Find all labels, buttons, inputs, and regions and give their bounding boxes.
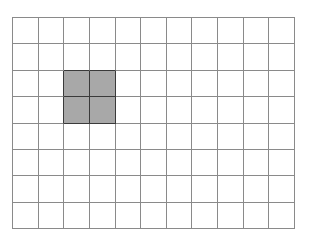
grid-cell[interactable] (192, 176, 218, 202)
grid-cell[interactable] (90, 18, 116, 44)
grid-cell[interactable] (167, 18, 193, 44)
grid-cell[interactable] (141, 203, 167, 229)
grid-cell[interactable] (64, 176, 90, 202)
grid-cell[interactable] (90, 176, 116, 202)
grid-cell[interactable] (13, 97, 39, 123)
grid-cell[interactable] (13, 18, 39, 44)
grid-cell[interactable] (269, 176, 295, 202)
grid-cell-filled[interactable] (90, 71, 116, 97)
grid-cell[interactable] (269, 71, 295, 97)
grid-cell[interactable] (13, 44, 39, 70)
grid-cell[interactable] (39, 124, 65, 150)
grid-cell[interactable] (39, 150, 65, 176)
grid-cell[interactable] (192, 18, 218, 44)
grid-cell[interactable] (244, 97, 270, 123)
grid-cell[interactable] (192, 203, 218, 229)
grid-cell[interactable] (39, 71, 65, 97)
grid-cell[interactable] (39, 97, 65, 123)
grid-cell[interactable] (269, 124, 295, 150)
grid-cell[interactable] (116, 97, 142, 123)
grid-cell[interactable] (167, 124, 193, 150)
grid-cell[interactable] (269, 150, 295, 176)
grid-cell[interactable] (13, 150, 39, 176)
grid-cell-filled[interactable] (90, 97, 116, 123)
grid-cell[interactable] (269, 18, 295, 44)
grid-cell[interactable] (141, 124, 167, 150)
grid-cell[interactable] (244, 44, 270, 70)
grid-cell[interactable] (90, 203, 116, 229)
grid-cell[interactable] (192, 97, 218, 123)
grid-cell[interactable] (116, 18, 142, 44)
grid-cell[interactable] (39, 44, 65, 70)
grid-cell[interactable] (141, 150, 167, 176)
grid-cell[interactable] (13, 176, 39, 202)
grid-cell[interactable] (218, 18, 244, 44)
grid-cell[interactable] (218, 124, 244, 150)
grid-cell[interactable] (269, 44, 295, 70)
grid-cell[interactable] (244, 124, 270, 150)
grid-cell[interactable] (244, 71, 270, 97)
grid-cell[interactable] (192, 71, 218, 97)
grid-cell[interactable] (244, 150, 270, 176)
grid-cell[interactable] (39, 203, 65, 229)
grid-cell[interactable] (13, 203, 39, 229)
grid-cell[interactable] (218, 71, 244, 97)
grid-cell[interactable] (64, 150, 90, 176)
grid-cell[interactable] (116, 124, 142, 150)
grid-cell[interactable] (218, 44, 244, 70)
grid-cell[interactable] (218, 150, 244, 176)
grid-cell-filled[interactable] (64, 71, 90, 97)
grid-cell[interactable] (244, 18, 270, 44)
grid-cell[interactable] (116, 71, 142, 97)
grid-cell[interactable] (192, 150, 218, 176)
grid-cell[interactable] (116, 150, 142, 176)
grid-cell[interactable] (244, 203, 270, 229)
grid-cell[interactable] (64, 44, 90, 70)
grid-cell[interactable] (244, 176, 270, 202)
grid-cell[interactable] (116, 44, 142, 70)
grid-cell[interactable] (64, 203, 90, 229)
grid-cell[interactable] (141, 18, 167, 44)
grid-cell[interactable] (269, 203, 295, 229)
grid-cell[interactable] (141, 71, 167, 97)
grid-cell[interactable] (116, 176, 142, 202)
grid-cell-filled[interactable] (64, 97, 90, 123)
grid-cell[interactable] (90, 44, 116, 70)
grid-cell[interactable] (218, 97, 244, 123)
grid-cell[interactable] (218, 203, 244, 229)
grid-cell[interactable] (141, 97, 167, 123)
grid-cell[interactable] (39, 176, 65, 202)
grid-cell[interactable] (167, 97, 193, 123)
grid-cell[interactable] (116, 203, 142, 229)
grid-cell[interactable] (64, 124, 90, 150)
grid-cell[interactable] (141, 176, 167, 202)
grid-cell[interactable] (167, 203, 193, 229)
grid-cell[interactable] (64, 18, 90, 44)
grid-cell[interactable] (167, 176, 193, 202)
grid-cell[interactable] (218, 176, 244, 202)
grid-cell[interactable] (167, 71, 193, 97)
grid-cell[interactable] (90, 124, 116, 150)
grid-cell[interactable] (13, 124, 39, 150)
game-grid (12, 17, 295, 229)
grid-cell[interactable] (192, 124, 218, 150)
grid-cell[interactable] (192, 44, 218, 70)
grid-cell[interactable] (13, 71, 39, 97)
grid-cell[interactable] (39, 18, 65, 44)
grid-cell[interactable] (167, 150, 193, 176)
grid-cell[interactable] (141, 44, 167, 70)
grid-cell[interactable] (269, 97, 295, 123)
grid-cell[interactable] (90, 150, 116, 176)
grid-cell[interactable] (167, 44, 193, 70)
